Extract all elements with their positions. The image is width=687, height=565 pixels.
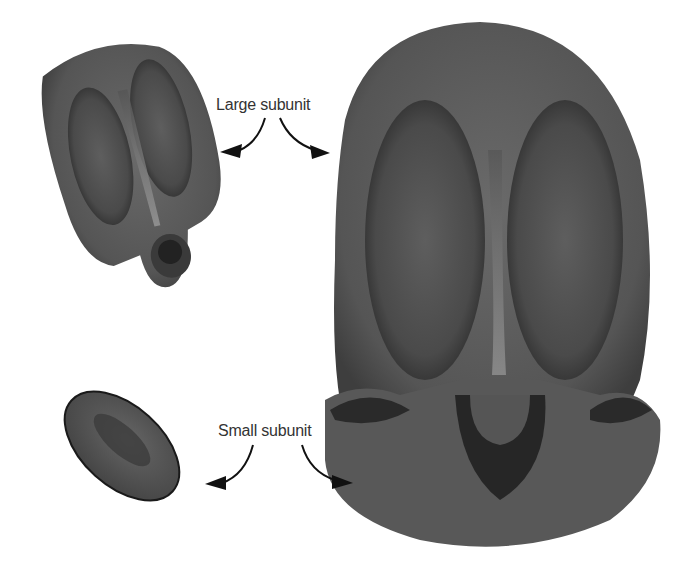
label-large-subunit: Large subunit bbox=[216, 96, 310, 114]
small-subunit-illustration bbox=[45, 371, 200, 521]
arrow-large-right-icon bbox=[280, 118, 315, 150]
arrow-small-left-icon bbox=[222, 445, 253, 483]
large-subunit-illustration bbox=[31, 28, 244, 305]
label-small-subunit: Small subunit bbox=[218, 422, 311, 440]
assembled-ribosome-illustration bbox=[325, 22, 660, 547]
arrow-large-left-icon bbox=[240, 118, 265, 150]
ribosome-diagram bbox=[0, 0, 687, 565]
